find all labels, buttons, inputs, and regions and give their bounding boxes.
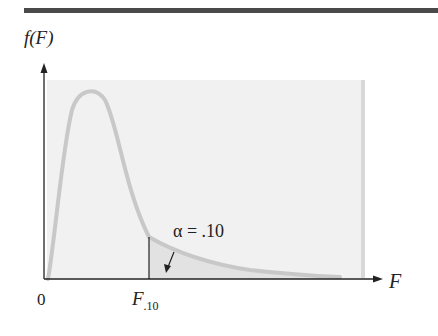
- plot-panel-edge: [361, 80, 365, 278]
- y-axis-label: f(F): [24, 27, 54, 49]
- critical-value-label: F.10: [132, 288, 159, 314]
- y-axis-arrow-icon: [41, 63, 48, 73]
- origin-label: 0: [37, 290, 46, 310]
- alpha-annotation: α = .10: [173, 221, 224, 242]
- f-distribution-figure: [0, 0, 438, 336]
- critical-value-subscript: .10: [144, 299, 159, 313]
- x-axis-arrow-icon: [373, 276, 383, 283]
- plot-panel: [47, 80, 363, 278]
- critical-value-main: F: [132, 288, 144, 309]
- x-axis-label: F: [389, 270, 401, 293]
